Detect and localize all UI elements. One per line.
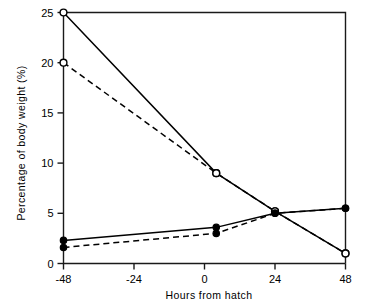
data-point-marker (342, 250, 349, 257)
data-point-marker (213, 230, 219, 236)
x-tick-label: 0 (201, 273, 207, 285)
data-point-marker (213, 170, 220, 177)
x-tick-label: -24 (126, 273, 142, 285)
y-tick-label: 25 (41, 7, 53, 19)
series-line-0 (64, 13, 346, 254)
x-tick-label: -48 (56, 273, 72, 285)
y-tick-label: 5 (47, 207, 53, 219)
x-axis-title: Hours from hatch (166, 289, 253, 301)
y-tick-label: 0 (47, 258, 53, 270)
data-point-marker (60, 244, 66, 250)
y-tick-label: 20 (41, 57, 53, 69)
chart-svg: 0510152025 -48-2402448 Hours from hatch … (0, 0, 366, 307)
plot-frame (64, 13, 346, 264)
data-point-marker (60, 237, 66, 243)
y-axis-title: Percentage of body weight (%) (15, 65, 27, 220)
frame-border (64, 13, 346, 264)
x-tick-label: 24 (269, 273, 281, 285)
x-axis-ticks: -48-2402448 (56, 264, 352, 285)
x-tick-label: 48 (339, 273, 351, 285)
data-point-marker (272, 210, 278, 216)
series-line-1 (64, 63, 346, 254)
series-lines-group (64, 13, 346, 254)
y-tick-label: 15 (41, 107, 53, 119)
series-line-2 (64, 208, 346, 240)
data-point-marker (60, 59, 67, 66)
chart-figure: 0510152025 -48-2402448 Hours from hatch … (0, 0, 366, 307)
data-point-marker (342, 205, 348, 211)
y-tick-label: 10 (41, 157, 53, 169)
y-axis-ticks: 0510152025 (41, 7, 63, 270)
series-markers-group (60, 9, 349, 257)
data-point-marker (60, 9, 67, 16)
